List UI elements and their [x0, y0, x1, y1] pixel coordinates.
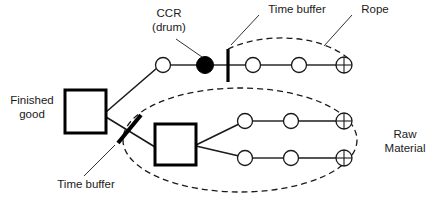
diagram-canvas: CCR (drum) Time buffer Rope Finished goo… [0, 0, 435, 207]
operation-node-bot-2[interactable] [284, 151, 299, 166]
leader-time-buffer-bottom [84, 145, 115, 176]
ccr-drum-node[interactable] [197, 57, 214, 74]
leader-time-buffer-top [231, 15, 259, 45]
leader-ccr-drum [176, 39, 202, 57]
raw-material-source-mid[interactable] [336, 113, 352, 129]
operation-node-top-3[interactable] [292, 58, 307, 73]
label-ccr-drum: CCR (drum) [138, 7, 200, 34]
rope-arc-top-group [228, 38, 348, 58]
raw-material-source-bot[interactable] [336, 150, 352, 166]
connector-assembly-to-bottom-chain [196, 146, 239, 156]
assembly-box[interactable] [155, 124, 196, 165]
finished-good-box[interactable] [65, 90, 106, 133]
raw-material-source-top[interactable] [336, 57, 352, 73]
operation-node-bot-1[interactable] [238, 151, 253, 166]
time-buffer-bar-diagonal[interactable] [118, 115, 141, 143]
label-raw-material: Raw Material [377, 128, 433, 155]
flow-connectors [106, 65, 336, 158]
operation-node-mid-2[interactable] [284, 114, 299, 129]
operation-node-top-1[interactable] [156, 58, 171, 73]
connector-finished-good-to-top-chain [106, 68, 157, 112]
label-time-buffer-bottom: Time buffer [48, 178, 124, 192]
label-finished-good: Finished good [2, 94, 62, 121]
dbd-diagram-svg [0, 0, 435, 207]
operation-node-mid-1[interactable] [238, 114, 253, 129]
label-rope: Rope [353, 3, 397, 17]
label-time-buffer-top: Time buffer [259, 3, 335, 17]
leader-rope [324, 15, 352, 46]
rope-arc-top [228, 38, 348, 58]
operation-node-top-2[interactable] [246, 58, 261, 73]
connector-assembly-to-middle-chain [196, 124, 239, 145]
